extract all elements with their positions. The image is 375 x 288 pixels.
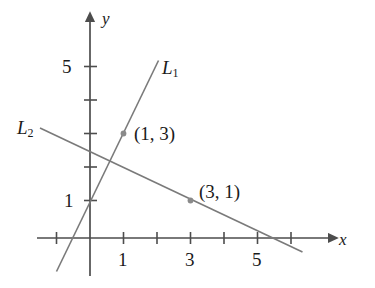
y-tick-label-1: 1	[64, 191, 74, 210]
line-label-l2: L2	[17, 118, 34, 137]
y-tick-label-5: 5	[62, 57, 72, 76]
x-tick-label-5: 5	[252, 250, 262, 269]
data-point-3-1	[188, 198, 194, 204]
point-label-3-1: (3, 1)	[199, 182, 240, 201]
x-tick-label-3: 3	[185, 250, 195, 269]
coordinate-plane-svg	[0, 0, 375, 288]
line-l2	[40, 128, 303, 252]
line-label-l2-subscript: 2	[28, 126, 34, 140]
line-l1	[57, 61, 159, 272]
point-label-1-3: (1, 3)	[134, 124, 175, 143]
y-axis-label: y	[102, 10, 110, 27]
line-label-l2-base: L	[17, 117, 28, 138]
x-axis-label: x	[339, 231, 347, 248]
line-label-l1: L1	[162, 58, 179, 77]
graph-figure: y x 5 1 1 3 5 L1 L2 (1, 3) (3, 1)	[0, 0, 375, 288]
line-label-l1-subscript: 1	[173, 66, 179, 80]
line-label-l1-base: L	[162, 57, 173, 78]
x-tick-label-1: 1	[118, 250, 128, 269]
data-point-1-3	[121, 131, 127, 137]
